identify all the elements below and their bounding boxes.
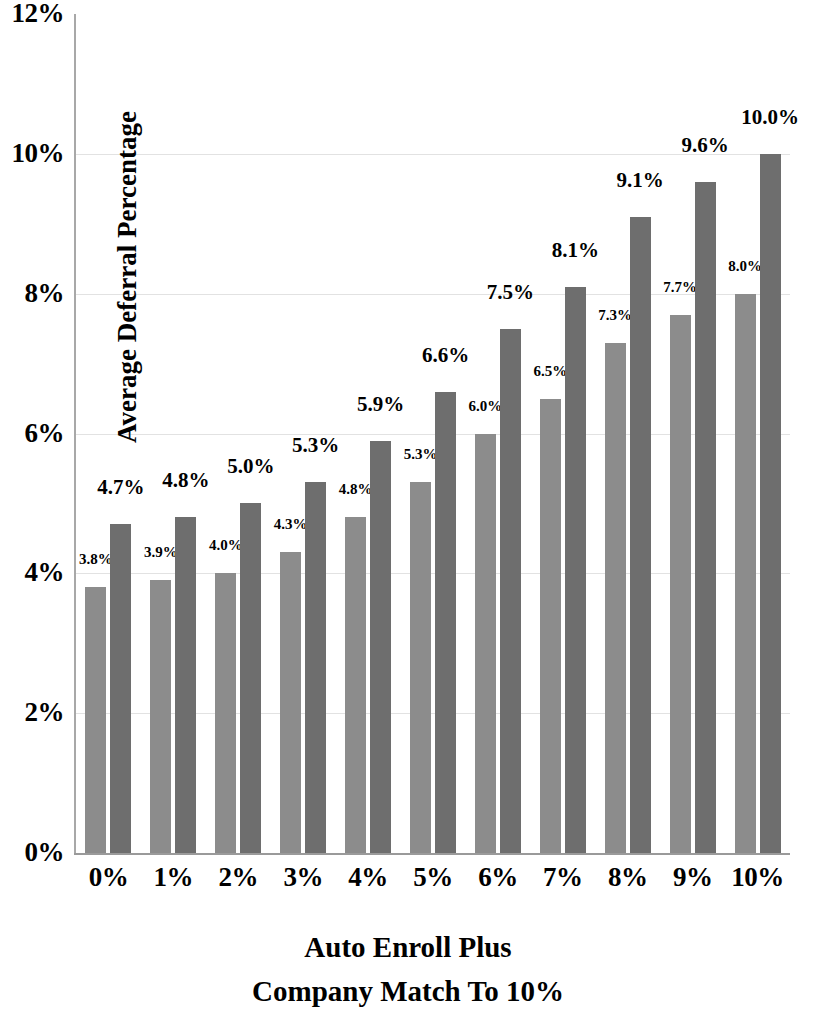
bar-series-b-3 (305, 482, 326, 853)
bar-series-b-5 (435, 392, 456, 853)
bar-series-b-8 (630, 217, 651, 853)
x-axis-tick-label: 10% (719, 862, 796, 892)
y-axis-tick-label: 2% (0, 699, 64, 726)
y-axis-tick-label: 0% (0, 839, 64, 866)
y-axis-tick-label: 6% (0, 420, 64, 447)
y-axis-tick-label: 10% (0, 140, 64, 167)
bar-series-b-7 (565, 287, 586, 853)
bar-series-b-10 (760, 154, 781, 853)
bar-series-a-0 (85, 587, 106, 853)
bar-value-label-series-b-2: 5.0% (213, 456, 289, 477)
bar-series-a-1 (150, 580, 171, 853)
bar-series-a-2 (215, 573, 236, 853)
bar-value-label-series-b-3: 5.3% (278, 435, 354, 456)
bar-series-a-4 (345, 517, 366, 853)
x-axis-tick-labels: 0%1%2%3%4%5%6%7%8%9%10% (76, 862, 790, 902)
bar-series-b-0 (110, 524, 131, 853)
plot-area: 3.8%4.7%3.9%4.8%4.0%5.0%4.3%5.3%4.8%5.9%… (76, 14, 790, 853)
bar-value-label-series-b-5: 6.6% (408, 345, 484, 366)
y-axis-tick-label: 4% (0, 559, 64, 586)
y-axis-tick-label: 8% (0, 280, 64, 307)
x-axis-title-line-1: Auto Enroll Plus (304, 931, 511, 963)
bar-series-a-6 (475, 434, 496, 854)
bar-series-a-10 (735, 294, 756, 853)
bar-value-label-series-b-4: 5.9% (343, 394, 419, 415)
y-axis-tick-label: 12% (0, 0, 64, 27)
bar-value-label-series-b-8: 9.1% (602, 170, 678, 191)
bar-value-label-series-b-10: 10.0% (732, 107, 808, 128)
bar-series-a-7 (540, 399, 561, 853)
bar-value-label-series-b-7: 8.1% (537, 240, 613, 261)
bar-series-a-8 (605, 343, 626, 853)
bar-series-b-2 (240, 503, 261, 853)
x-axis-title-line-2: Company Match To 10% (0, 969, 816, 1013)
bar-value-label-series-b-6: 7.5% (472, 282, 548, 303)
bar-value-label-series-b-9: 9.6% (667, 135, 743, 156)
bar-series-b-4 (370, 441, 391, 854)
bar-series-a-9 (670, 315, 691, 853)
bar-series-b-1 (175, 517, 196, 853)
bar-series-a-3 (280, 552, 301, 853)
x-axis-title: Auto Enroll Plus Company Match To 10% (0, 925, 816, 1013)
x-axis-line (74, 853, 790, 855)
bar-chart: 0%2%4%6%8%10%12% Average Deferral Percen… (0, 0, 816, 1014)
bar-series-b-6 (500, 329, 521, 853)
bar-series-b-9 (695, 182, 716, 853)
bar-series-a-5 (410, 482, 431, 853)
